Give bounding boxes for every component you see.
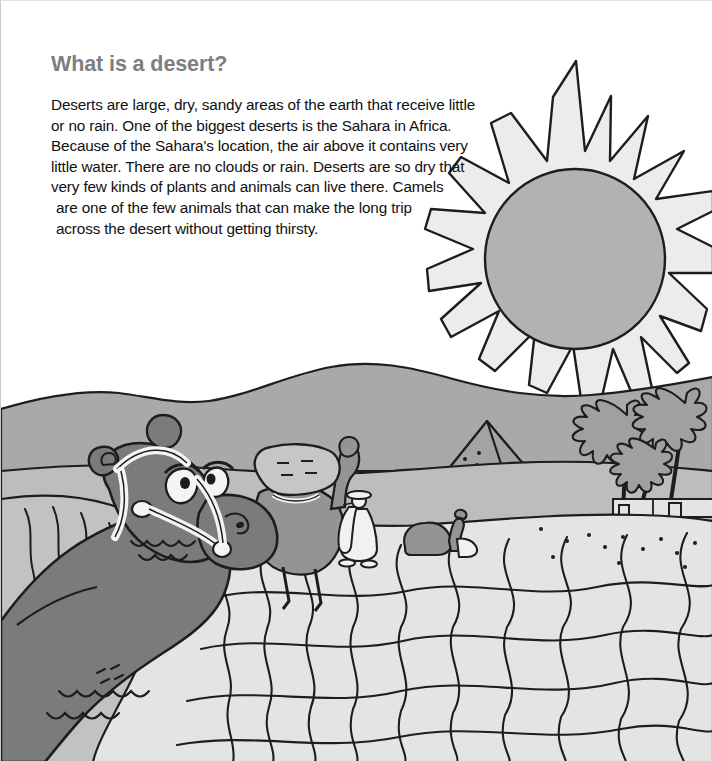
desert-illustration [1,1,712,761]
book-page: What is a desert? Deserts are large, dry… [0,0,712,761]
sun-disc [485,169,665,349]
